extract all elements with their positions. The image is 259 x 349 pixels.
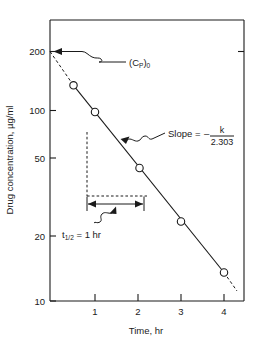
slope-annotation: Slope = – k 2.303 (121, 125, 235, 147)
arrowhead-left (88, 201, 96, 208)
slope-squiggle (127, 133, 165, 141)
x-tick-label-3: 3 (178, 306, 183, 317)
slope-denominator: 2.303 (211, 137, 234, 147)
slope-arrowhead (121, 137, 130, 145)
half-life-squiggle (94, 213, 112, 223)
data-point (70, 82, 77, 89)
slope-label: Slope = (168, 128, 201, 139)
intercept-squiggle (82, 52, 126, 63)
intercept-arrowhead (54, 48, 63, 55)
slope-minus-sign: – (204, 128, 210, 139)
intercept-annotation: (CP)0 (54, 48, 151, 69)
intercept-label: (CP)0 (129, 57, 151, 69)
x-tick-labels: 1 2 3 4 (92, 306, 226, 317)
half-life-label: t1/2 = 1 hr (62, 229, 101, 241)
data-point (177, 218, 184, 225)
x-tick-label-2: 2 (135, 306, 140, 317)
y-tick-labels: 200 100 50 20 10 (29, 46, 45, 307)
pharmacokinetics-semilog-plot: 200 100 50 20 10 1 2 3 4 Time, hr Drug c… (0, 0, 259, 349)
y-tick-label-10: 10 (34, 296, 45, 307)
x-tick-label-4: 4 (221, 306, 226, 317)
y-tick-label-100: 100 (29, 105, 45, 116)
data-point (91, 108, 98, 115)
chart-canvas: 200 100 50 20 10 1 2 3 4 Time, hr Drug c… (0, 0, 259, 349)
half-life-annotation: t1/2 = 1 hr (62, 207, 117, 242)
data-point (220, 269, 227, 276)
extrapolation-to-intercept (50, 52, 74, 86)
x-axis-ticks (95, 294, 224, 301)
y-axis-title: Drug concentration, µg/ml (4, 106, 15, 215)
half-life-construction (87, 132, 147, 196)
y-tick-label-20: 20 (34, 231, 45, 242)
slope-numerator: k (220, 125, 225, 135)
y-tick-label-50: 50 (34, 153, 45, 164)
x-axis-title: Time, hr (129, 325, 163, 336)
data-point (136, 164, 143, 171)
x-tick-label-1: 1 (92, 306, 97, 317)
y-tick-label-200: 200 (29, 46, 45, 57)
arrowhead-right (135, 201, 143, 208)
